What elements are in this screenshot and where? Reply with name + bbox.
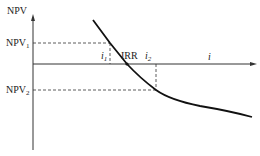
i2-label: i2 bbox=[145, 51, 151, 63]
npv1-subscript: 1 bbox=[26, 42, 30, 50]
y-axis-arrow-icon bbox=[31, 14, 35, 21]
npv1-label: NPV1 bbox=[6, 38, 30, 50]
x-axis-arrow-icon bbox=[250, 62, 257, 66]
npv1-text: NPV bbox=[6, 37, 26, 48]
npv-curve bbox=[93, 20, 252, 117]
irr-point bbox=[125, 62, 128, 65]
npv2-label: NPV2 bbox=[6, 85, 30, 97]
x-axis-label: i bbox=[208, 52, 211, 62]
npv2-subscript: 2 bbox=[26, 89, 30, 97]
irr-label: IRR bbox=[121, 51, 138, 61]
y-axis-label: NPV bbox=[7, 6, 27, 16]
i2-subscript: 2 bbox=[148, 55, 152, 63]
npv2-text: NPV bbox=[6, 84, 26, 95]
npv-irr-diagram bbox=[0, 0, 260, 156]
i1-label: i1 bbox=[101, 51, 107, 63]
i1-subscript: 1 bbox=[104, 55, 108, 63]
